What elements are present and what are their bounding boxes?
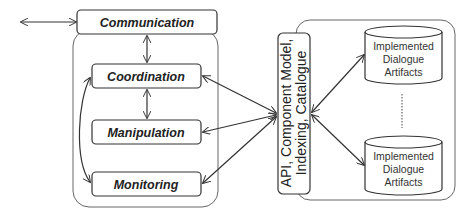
- artifact-top-line1: Implemented: [373, 40, 434, 52]
- artifact-bottom-line2: Dialogue: [383, 163, 425, 175]
- artifact-bottom-line1: Implemented: [373, 150, 434, 162]
- api-artifact-top-arrow: [312, 55, 364, 112]
- artifact-bottom-line3: Artifacts: [385, 176, 423, 188]
- artifact-cylinder-top: Implemented Dialogue Artifacts: [365, 26, 442, 84]
- artifact-top-line3: Artifacts: [385, 66, 423, 78]
- communication-label: Communication: [100, 16, 195, 30]
- api-coordination-arrow: [203, 76, 276, 113]
- coordination-label: Coordination: [107, 70, 185, 84]
- monitoring-label: Monitoring: [114, 178, 179, 192]
- api-artifact-bottom-arrow: [312, 115, 364, 165]
- artifact-cylinder-bottom: Implemented Dialogue Artifacts: [365, 136, 442, 195]
- architecture-diagram: Communication Coordination Manipulation …: [0, 0, 471, 217]
- coordination-monitoring-curved-arrow: [79, 78, 90, 182]
- manipulation-label: Manipulation: [107, 126, 184, 140]
- api-label-line1: API, Component Model,: [278, 39, 294, 188]
- api-monitoring-arrow: [203, 117, 276, 183]
- api-label-line2: Indexing, Catalogue: [293, 51, 309, 176]
- api-manipulation-arrow: [203, 115, 276, 132]
- manipulation-box: Manipulation: [92, 120, 201, 144]
- artifact-top-line2: Dialogue: [383, 53, 425, 65]
- monitoring-box: Monitoring: [92, 172, 201, 196]
- api-component-model-box: API, Component Model, Indexing, Catalogu…: [278, 33, 310, 194]
- coordination-box: Coordination: [92, 64, 201, 88]
- communication-box: Communication: [77, 10, 217, 34]
